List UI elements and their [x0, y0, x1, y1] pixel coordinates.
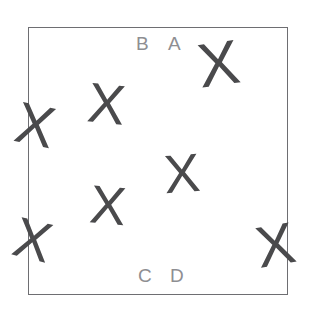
image-canvas: XXXXXXXBACD: [0, 0, 310, 319]
bounding-box: [28, 27, 288, 295]
